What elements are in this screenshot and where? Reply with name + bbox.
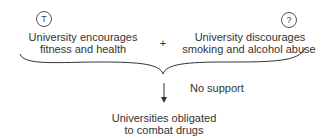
conclusion-line2: to combat drugs [104, 124, 224, 136]
question-badge: ? [281, 12, 297, 28]
true-badge: T [36, 11, 52, 27]
premise-right-line2: smoking and alcohol abuse [174, 43, 324, 55]
premise-left-line2: fitness and health [28, 43, 138, 55]
plus-operator: + [158, 37, 168, 49]
conclusion-line1: Universities obligated [104, 112, 224, 124]
premise-right-line1: University discourages [180, 31, 320, 43]
premise-left-line1: University encourages [28, 31, 138, 43]
arrow-head [161, 97, 167, 103]
link-label: No support [190, 82, 244, 94]
